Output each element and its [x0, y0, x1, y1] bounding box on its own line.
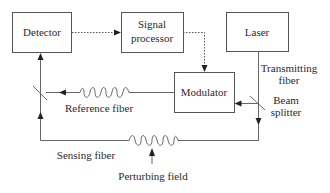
transmitting-fiber-label-line1: Transmitting [261, 62, 318, 74]
detector-block: Detector [13, 13, 72, 53]
beam-splitter-label-line1: Beam [273, 94, 299, 106]
signal-processor-label-line1: Signal [138, 18, 166, 30]
laser-block: Laser [227, 13, 289, 52]
arrow-left-icon [235, 101, 242, 107]
fiber-sensor-diagram: Detector Signal processor Laser Modulato… [0, 0, 330, 193]
splitter-to-modulator-path [235, 101, 259, 107]
perturbing-field-arrow [149, 148, 155, 164]
arrow-left-icon [59, 90, 66, 96]
perturbing-field-label: Perturbing field [118, 170, 188, 182]
detector-label: Detector [23, 26, 61, 38]
laser-label: Laser [245, 26, 270, 38]
arrow-up-icon [38, 53, 44, 60]
arrow-down-icon [256, 118, 262, 125]
sensing-fiber-coil [129, 136, 178, 146]
arrow-down-icon [202, 65, 208, 72]
detector-to-processor-signal [72, 30, 121, 36]
reference-fiber [46, 88, 175, 98]
beam-splitter-label-line2: splitter [271, 106, 302, 118]
reference-fiber-label: Reference fiber [65, 102, 133, 114]
modulator-label: Modulator [181, 86, 228, 98]
transmitting-fiber-label-line2: fiber [279, 74, 300, 86]
detector-return-path [38, 53, 44, 141]
signal-processor-label-line2: processor [131, 32, 173, 44]
reference-fiber-coil [80, 88, 129, 98]
arrow-right-icon [114, 30, 121, 36]
arrow-up-icon [149, 148, 155, 156]
sensing-fiber [41, 136, 259, 146]
sensing-fiber-label: Sensing fiber [57, 149, 116, 161]
modulator-block: Modulator [175, 73, 235, 113]
signal-processor-block: Signal processor [122, 13, 184, 53]
arrow-up-icon [38, 112, 44, 119]
processor-to-modulator-signal [183, 33, 208, 73]
